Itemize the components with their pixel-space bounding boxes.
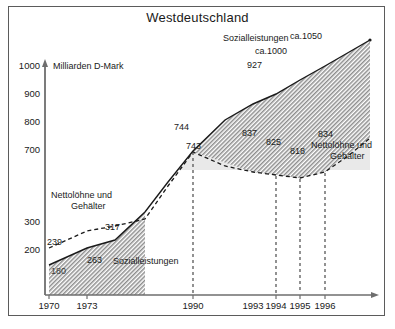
endpoint-marker [368, 38, 371, 41]
x-axis-arrow [371, 292, 379, 298]
value-label-180: 180 [51, 266, 66, 276]
x-tick-1990: 1990 [176, 301, 210, 311]
series-label-nettoloehne-left-line1: Nettolöhne und [51, 190, 112, 200]
y-tick-900: 900 [14, 89, 40, 99]
value-label-263: 263 [87, 255, 102, 265]
value-label-239: 239 [47, 237, 62, 247]
x-tick-1996: 1996 [308, 301, 342, 311]
chart-container: Westdeutschland [0, 0, 395, 329]
value-label-825: 825 [266, 137, 281, 147]
y-tick-1000: 1000 [14, 61, 40, 71]
value-label-ca1000: ca.1000 [255, 46, 287, 56]
series-label-sozialleistungen-left: Sozialleistungen [113, 256, 179, 266]
value-label-317: 317 [105, 222, 120, 232]
y-axis-arrow [42, 59, 48, 67]
y-tick-700: 700 [14, 145, 40, 155]
value-label-743: 743 [186, 141, 201, 151]
sozialleistungen-area-left [49, 212, 145, 295]
chart-plot-area [0, 0, 395, 329]
value-label-818: 818 [290, 146, 305, 156]
x-tick-1973: 1973 [70, 301, 104, 311]
value-label-834: 834 [318, 129, 333, 139]
value-label-ca1050: ca.1050 [290, 31, 322, 41]
value-label-837: 837 [242, 128, 257, 138]
series-label-nettoloehne-left-line2: Gehälter [71, 201, 106, 211]
y-tick-200: 200 [14, 245, 40, 255]
y-tick-800: 800 [14, 117, 40, 127]
series-label-sozialleistungen-right: Sozialleistungen [223, 33, 289, 43]
series-label-nettoloehne-right-line2: Gehälter [330, 151, 365, 161]
value-label-927: 927 [247, 60, 262, 70]
y-axis-unit-label: Milliarden D-Mark [53, 61, 124, 71]
y-tick-300: 300 [14, 217, 40, 227]
value-label-744: 744 [174, 122, 189, 132]
series-label-nettoloehne-right-line1: Nettolöhne und [311, 140, 372, 150]
x-tick-1970: 1970 [32, 301, 66, 311]
